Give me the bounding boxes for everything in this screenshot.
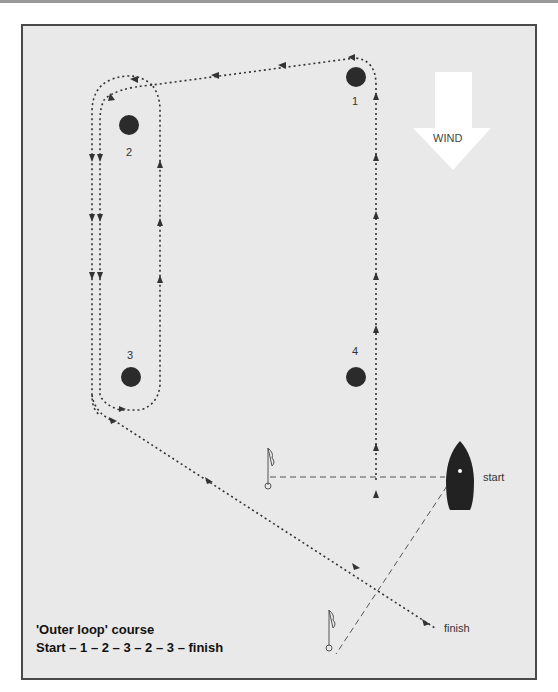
course-sequence: Start – 1 – 2 – 3 – 2 – 3 – finish — [36, 640, 223, 655]
start-finish-lines — [270, 477, 447, 654]
start-label: start — [483, 471, 504, 483]
committee-boat-icon — [446, 441, 474, 510]
finish-label: finish — [444, 622, 470, 634]
buoy-4 — [346, 367, 366, 387]
course-title: 'Outer loop' course — [36, 622, 154, 637]
direction-arrows — [89, 54, 430, 626]
buoy-3 — [121, 367, 141, 387]
buoy-1 — [346, 67, 366, 87]
buoy-2 — [119, 115, 139, 135]
buoy-3-label: 3 — [127, 349, 133, 361]
course-path — [92, 58, 435, 628]
buoy-4-label: 4 — [352, 345, 358, 357]
buoy-2-label: 2 — [126, 146, 132, 158]
course-diagram — [0, 0, 558, 692]
wind-label: WIND — [433, 132, 462, 144]
start-flag-icon — [265, 448, 274, 489]
finish-flag-icon — [326, 610, 335, 651]
wind-arrow-icon — [413, 72, 491, 170]
buoy-1-label: 1 — [352, 95, 358, 107]
